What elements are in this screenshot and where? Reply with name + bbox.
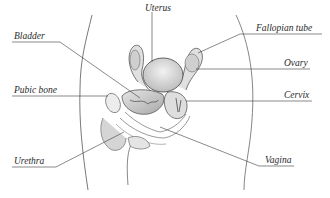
label-vagina: Vagina [265, 156, 291, 166]
body-outline-right [236, 15, 253, 190]
cervix [164, 92, 187, 119]
label-urethra: Urethra [14, 157, 44, 167]
label-ovary: Ovary [284, 59, 308, 69]
pubic-bone [103, 91, 123, 115]
anatomy-diagram: Uterus Fallopian tube Bladder Ovary Pubi… [0, 0, 330, 198]
uterus [143, 58, 183, 92]
body-outline-left [80, 15, 92, 190]
label-pubic-bone: Pubic bone [14, 86, 57, 96]
label-bladder: Bladder [14, 32, 45, 42]
label-fallopian-tube: Fallopian tube [256, 24, 312, 34]
label-cervix: Cervix [284, 91, 309, 101]
ovary [185, 54, 199, 72]
label-uterus: Uterus [145, 4, 171, 14]
labia [101, 118, 126, 150]
bladder [122, 90, 164, 115]
